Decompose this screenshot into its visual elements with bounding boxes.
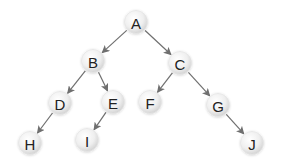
edge-C-F <box>158 73 173 92</box>
nodes-layer: ABCDEFGHIJ <box>19 11 264 155</box>
node-A: A <box>125 11 148 34</box>
edge-D-H <box>38 113 53 133</box>
node-label: I <box>85 133 89 150</box>
node-F: F <box>139 91 162 114</box>
node-label: D <box>55 96 66 113</box>
node-D: D <box>49 92 72 115</box>
node-E: E <box>102 91 125 114</box>
edge-A-C <box>145 31 171 55</box>
edge-E-I <box>94 112 106 129</box>
node-H: H <box>19 132 42 155</box>
edge-B-D <box>68 71 86 93</box>
node-C: C <box>169 52 192 75</box>
node-J: J <box>241 132 264 155</box>
edge-A-B <box>102 30 126 52</box>
node-label: J <box>248 136 256 153</box>
node-label: G <box>212 98 224 115</box>
edges-layer <box>38 30 244 133</box>
edge-B-E <box>99 72 108 91</box>
node-label: F <box>145 95 154 112</box>
node-label: A <box>131 15 141 32</box>
node-label: E <box>108 95 118 112</box>
edge-G-J <box>226 114 243 133</box>
node-I: I <box>76 129 99 152</box>
node-B: B <box>82 50 105 73</box>
node-label: B <box>88 54 98 71</box>
edge-C-G <box>188 72 209 95</box>
node-label: C <box>175 56 186 73</box>
node-label: H <box>25 136 36 153</box>
node-G: G <box>207 94 230 117</box>
tree-diagram: ABCDEFGHIJ <box>0 0 281 164</box>
